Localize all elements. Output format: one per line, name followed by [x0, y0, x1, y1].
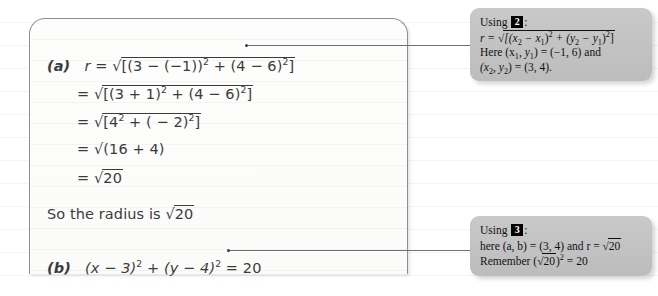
cb-p2: Remember (√	[480, 255, 543, 267]
g2-p1: (x	[480, 61, 489, 73]
reference-badge-2: 2	[511, 16, 523, 28]
using-label: Using	[480, 224, 507, 236]
radicand-group: [(3 − (−1))2 + (4 − 6)2]	[121, 57, 296, 74]
working-panel: (a) r = √[(3 − (−1))2 + (4 − 6)2] = √[(3…	[29, 18, 408, 274]
part-b-label: (b)	[47, 260, 71, 276]
cb-p4: = 20	[564, 255, 588, 267]
part-a-line-3: = √[42 + ( − 2)2]	[77, 113, 201, 130]
radicand-part-2: + ( − 2)	[124, 114, 188, 130]
callout-using-2: Using 2: r = √[(x2 − x1)2 + (y2 − y1)2] …	[470, 8, 652, 81]
formula-radicand: [(x2 − x1)2 + (y2 − y1)2]	[503, 30, 615, 46]
equals-sign-2: =	[77, 86, 94, 102]
part-a-line-4: = √(16 + 4)	[77, 141, 164, 157]
radicand-part-2: + (4 − 6)	[209, 58, 283, 74]
callout-top-heading: Using 2:	[480, 15, 643, 30]
f-p2: − x	[522, 32, 541, 44]
radicand-group: [42 + ( − 2)2]	[102, 113, 201, 130]
cb-p1: here (a, b) = (3, 4) and r = √	[480, 240, 609, 252]
cb-radicand-1: 20	[608, 238, 622, 254]
radicand-part-1: [4	[103, 114, 118, 130]
radicand-part-2: + (4 − 6)	[167, 86, 241, 102]
formula-prefix: r =	[480, 32, 498, 44]
radical-sign: √	[94, 141, 103, 157]
part-b-line: (b) (x − 3)2 + (y − 4)2 = 20	[47, 260, 261, 276]
conclusion-text: So the radius is	[47, 206, 165, 222]
radius-conclusion: So the radius is √20	[47, 205, 194, 222]
f-end: ]	[610, 32, 614, 44]
g2-p2: , y	[493, 61, 504, 73]
callout-top-formula: r = √[(x2 − x1)2 + (y2 − y1)2]	[480, 30, 643, 46]
leader-line-bottom	[230, 250, 470, 251]
callout-bottom-remember: Remember (√20)2 = 20	[480, 253, 643, 269]
leader-line-top	[248, 45, 470, 46]
g1-p2: , y	[519, 46, 530, 58]
equals-sign-5: =	[77, 170, 94, 186]
g1-p3: ) = (−1, 6) and	[534, 46, 601, 58]
f-p5: − y	[579, 32, 598, 44]
part-a-label: (a)	[47, 58, 70, 74]
equals-sign-4: =	[77, 141, 94, 157]
radicand-group: 20	[102, 169, 123, 186]
part-a-line-5: = √20	[77, 169, 123, 186]
radicand-part-1: [(3 − (−1))	[122, 58, 203, 74]
pb-part-3: = 20	[221, 260, 261, 276]
g1-p1: Here (x	[480, 46, 515, 58]
colon: :	[524, 16, 527, 28]
callout-bottom-given: here (a, b) = (3, 4) and r = √20	[480, 238, 643, 254]
pb-part-2: + (y − 4)	[142, 260, 215, 276]
callout-bottom-heading: Using 3:	[480, 223, 643, 238]
working-panel-content: (a) r = √[(3 − (−1))2 + (4 − 6)2] = √[(3…	[30, 19, 407, 274]
reference-badge-3: 3	[511, 224, 523, 236]
pb-part-1: (x − 3)	[85, 260, 136, 276]
radicand-close: ]	[246, 86, 252, 102]
f-p1: [(x	[504, 32, 517, 44]
variable-r: r =	[84, 58, 112, 74]
radicand-close: ]	[195, 114, 201, 130]
g2-p3: ) = (3, 4).	[508, 61, 552, 73]
callout-top-given-2: (x2, y2) = (3, 4).	[480, 60, 643, 75]
cb-radicand-2: 20	[542, 253, 556, 269]
radicand-part-1: (16 + 4)	[103, 141, 164, 157]
radicand-close: ]	[288, 58, 294, 74]
radicand-group: [(3 + 1)2 + (4 − 6)2]	[102, 85, 253, 102]
callout-using-3: Using 3: here (a, b) = (3, 4) and r = √2…	[470, 216, 652, 276]
colon: :	[524, 224, 527, 236]
radicand-part-1: [(3 + 1)	[103, 86, 161, 102]
page-background: (a) r = √[(3 − (−1))2 + (4 − 6)2] = √[(3…	[0, 0, 658, 296]
part-a-line-2: = √[(3 + 1)2 + (4 − 6)2]	[77, 85, 253, 102]
radicand-group: 20	[174, 205, 195, 222]
using-label: Using	[480, 16, 507, 28]
equals-sign-3: =	[77, 114, 94, 130]
part-a-line-1: (a) r = √[(3 − (−1))2 + (4 − 6)2]	[47, 57, 295, 74]
f-p4: + (y	[553, 32, 575, 44]
callout-top-given-1: Here (x1, y1) = (−1, 6) and	[480, 45, 643, 60]
